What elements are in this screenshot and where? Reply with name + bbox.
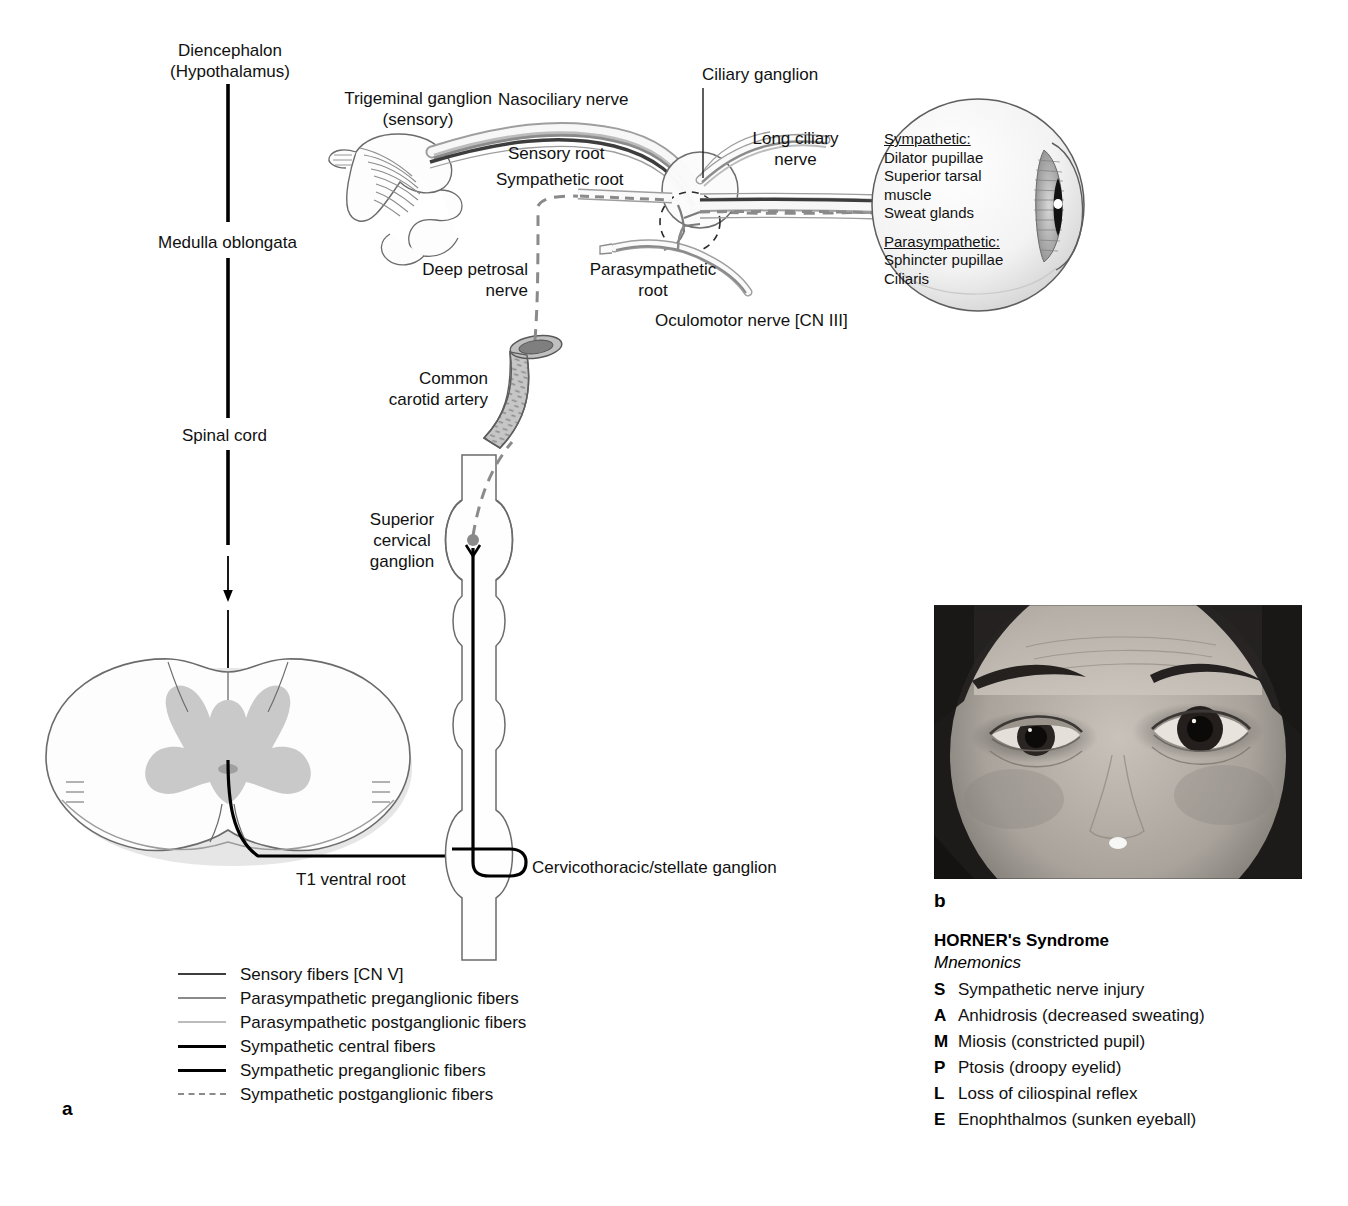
legend-item: Parasympathetic preganglionic fibers bbox=[178, 986, 598, 1010]
panel-letter-a: a bbox=[62, 1098, 73, 1120]
label-ciliary-ganglion: Ciliary ganglion bbox=[702, 64, 818, 85]
legend-item: Sympathetic postganglionic fibers bbox=[178, 1082, 598, 1106]
normal-eye bbox=[1132, 703, 1264, 759]
legend-swatch-sensory bbox=[178, 973, 226, 975]
label-superior-cervical-ganglion: Superior cervical ganglion bbox=[352, 509, 452, 572]
legend-item: Sympathetic preganglionic fibers bbox=[178, 1058, 598, 1082]
mnemonic-row: S Sympathetic nerve injury bbox=[934, 977, 1334, 1003]
legend-swatch-sympathetic-pre bbox=[178, 1069, 226, 1072]
mnemonic-key: L bbox=[934, 1081, 958, 1107]
mnemonic-row: E Enophthalmos (sunken eyeball) bbox=[934, 1107, 1334, 1133]
legend-item: Sympathetic central fibers bbox=[178, 1034, 598, 1058]
sympathetic-item: Superior tarsal bbox=[884, 167, 1044, 186]
label-oculomotor-nerve: Oculomotor nerve [CN III] bbox=[655, 310, 848, 331]
legend-item: Parasympathetic postganglionic fibers bbox=[178, 1010, 598, 1034]
label-deep-petrosal-nerve: Deep petrosal nerve bbox=[398, 259, 528, 301]
sympathetic-heading: Sympathetic: bbox=[884, 130, 1044, 149]
label-trigeminal-ganglion: Trigeminal ganglion (sensory) bbox=[318, 88, 518, 130]
label-medulla-oblongata: Medulla oblongata bbox=[158, 232, 297, 253]
mnemonic-text: Miosis (constricted pupil) bbox=[958, 1029, 1145, 1055]
sympathetic-root-segment bbox=[578, 194, 672, 200]
mnemonic-row: P Ptosis (droopy eyelid) bbox=[934, 1055, 1334, 1081]
label-common-carotid-artery: Common carotid artery bbox=[356, 368, 488, 410]
label-spinal-cord: Spinal cord bbox=[182, 425, 267, 446]
legend-swatch-parasympathetic-post bbox=[178, 1021, 226, 1023]
panel-letter-b: b bbox=[934, 890, 946, 912]
label-sympathetic-root: Sympathetic root bbox=[496, 169, 624, 190]
parasympathetic-item: Sphincter pupillae bbox=[884, 251, 1044, 270]
legend-label: Parasympathetic postganglionic fibers bbox=[240, 1012, 526, 1033]
eye-target-structures: Sympathetic: Dilator pupillae Superior t… bbox=[884, 130, 1044, 288]
mnemonic-key: E bbox=[934, 1107, 958, 1133]
label-long-ciliary-nerve: Long ciliary nerve bbox=[728, 128, 863, 170]
mnemonic-text: Enophthalmos (sunken eyeball) bbox=[958, 1107, 1196, 1133]
sympathetic-item: Dilator pupillae bbox=[884, 149, 1044, 168]
sympathetic-trunk bbox=[446, 455, 513, 960]
mnemonic-text: Loss of ciliospinal reflex bbox=[958, 1081, 1138, 1107]
mnemonic-key: P bbox=[934, 1055, 958, 1081]
legend-swatch-parasympathetic-pre bbox=[178, 997, 226, 999]
legend-label: Sympathetic central fibers bbox=[240, 1036, 436, 1057]
legend-label: Parasympathetic preganglionic fibers bbox=[240, 988, 519, 1009]
legend-swatch-sympathetic-central bbox=[178, 1045, 226, 1048]
horner-mnemonics-panel: HORNER's Syndrome Mnemonics S Sympatheti… bbox=[934, 930, 1334, 1133]
legend-item: Sensory fibers [CN V] bbox=[178, 962, 598, 986]
mnemonic-key: A bbox=[934, 1003, 958, 1029]
mnemonic-text: Sympathetic nerve injury bbox=[958, 977, 1144, 1003]
label-sensory-root: Sensory root bbox=[508, 143, 604, 164]
mnemonic-row: A Anhidrosis (decreased sweating) bbox=[934, 1003, 1334, 1029]
figure-canvas: Diencephalon (Hypothalamus) Medulla oblo… bbox=[0, 0, 1348, 1206]
mnemonic-row: L Loss of ciliospinal reflex bbox=[934, 1081, 1334, 1107]
mnemonics-subtitle: Mnemonics bbox=[934, 952, 1334, 974]
sympathetic-item: Sweat glands bbox=[884, 204, 1044, 223]
mnemonic-row: M Miosis (constricted pupil) bbox=[934, 1029, 1334, 1055]
mnemonic-text: Ptosis (droopy eyelid) bbox=[958, 1055, 1121, 1081]
sympathetic-item: muscle bbox=[884, 186, 1044, 205]
spacer bbox=[884, 223, 1044, 233]
ptotic-eye bbox=[970, 711, 1098, 763]
common-carotid-artery bbox=[484, 332, 563, 448]
legend-label: Sensory fibers [CN V] bbox=[240, 964, 403, 985]
mnemonic-text: Anhidrosis (decreased sweating) bbox=[958, 1003, 1205, 1029]
parasympathetic-item: Ciliaris bbox=[884, 270, 1044, 289]
clinical-photo-horner-patient bbox=[934, 605, 1302, 879]
mnemonic-key: M bbox=[934, 1029, 958, 1055]
fiber-type-legend: Sensory fibers [CN V] Parasympathetic pr… bbox=[178, 962, 598, 1106]
mnemonic-key: S bbox=[934, 977, 958, 1003]
label-t1-ventral-root: T1 ventral root bbox=[296, 869, 406, 890]
label-diencephalon: Diencephalon (Hypothalamus) bbox=[130, 40, 330, 82]
label-cervicothoracic-ganglion: Cervicothoracic/stellate ganglion bbox=[532, 857, 777, 878]
legend-swatch-sympathetic-post bbox=[178, 1093, 226, 1095]
legend-label: Sympathetic preganglionic fibers bbox=[240, 1060, 486, 1081]
label-nasociliary-nerve: Nasociliary nerve bbox=[498, 89, 628, 110]
legend-label: Sympathetic postganglionic fibers bbox=[240, 1084, 493, 1105]
parasympathetic-heading: Parasympathetic: bbox=[884, 233, 1044, 252]
mnemonics-title: HORNER's Syndrome bbox=[934, 930, 1334, 952]
label-parasympathetic-root: Parasympathetic root bbox=[558, 259, 748, 301]
